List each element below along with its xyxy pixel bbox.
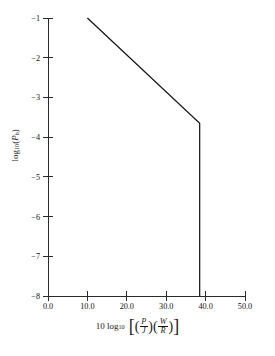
- data-series-curve: [87, 18, 199, 296]
- x-tick-label: 40.0: [198, 302, 212, 311]
- fraction-p-over-j: P J: [140, 318, 148, 336]
- x-tick-label: 50.0: [238, 302, 252, 311]
- y-axis-arg: P: [10, 135, 20, 141]
- y-axis-arg-sub: b: [14, 132, 20, 135]
- x-tick-label: 20.0: [120, 302, 134, 311]
- x-axis-title-prefix-sub: 10: [119, 324, 125, 330]
- y-tick-label: −4: [31, 133, 40, 142]
- chart-plot-area: −1 −2 −3 −4 −5 −6 −7 −8 0.0 10.0 20.0 30…: [0, 0, 275, 356]
- y-tick-labels: −1 −2 −3 −4 −5 −6 −7 −8: [31, 14, 40, 301]
- x-axis-title-prefix: 10 log: [96, 322, 119, 331]
- paren-open-2: (: [153, 321, 158, 332]
- x-tick-label: 30.0: [159, 302, 173, 311]
- x-axis-title: 10 log10 [ ( P J ) ( W R ) ]: [0, 318, 275, 336]
- x-tick-label: 10.0: [80, 302, 94, 311]
- y-axis-title-prefix: log: [10, 150, 20, 162]
- paren-open-1: (: [135, 321, 140, 332]
- figure-container: −1 −2 −3 −4 −5 −6 −7 −8 0.0 10.0 20.0 30…: [0, 0, 275, 356]
- y-paren-open: (: [10, 141, 20, 144]
- y-tick-label: −6: [31, 213, 40, 222]
- fraction-w-over-r: W R: [158, 318, 168, 336]
- x-tick-labels: 0.0 10.0 20.0 30.0 40.0 50.0: [43, 302, 252, 311]
- y-paren-close: ): [10, 129, 20, 132]
- y-axis-title: log10(Pb): [10, 95, 21, 195]
- axes-group: [48, 18, 245, 296]
- y-tick-label: −3: [31, 93, 40, 102]
- bracket-close: ]: [173, 320, 179, 333]
- y-tick-label: −7: [31, 252, 40, 261]
- y-tick-label: −8: [31, 292, 40, 301]
- fraction-denominator: J: [140, 327, 148, 335]
- x-tick-label: 0.0: [43, 302, 53, 311]
- y-tick-label: −2: [31, 54, 40, 63]
- y-axis-title-prefix-sub: 10: [14, 144, 20, 150]
- fraction-denominator: R: [158, 327, 168, 335]
- y-tick-label: −5: [31, 173, 40, 182]
- y-tick-label: −1: [31, 14, 40, 23]
